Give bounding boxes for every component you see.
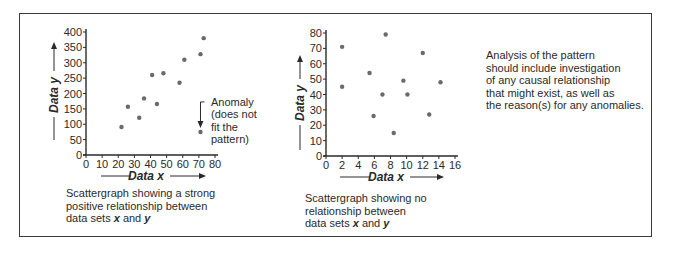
y-axis-title: Data y [47,76,61,113]
caption-text: and [120,212,144,224]
y-tick-label: 10 [310,135,322,147]
caption-line: data sets x and y [66,212,266,225]
analysis-line: should include investigation [486,62,676,75]
anomaly-point [198,130,202,134]
x-tick-label: 0 [323,159,329,171]
y-tick-label: 40 [310,89,322,101]
data-point [202,36,206,40]
caption-text: data sets [305,217,353,229]
anomaly-annotation: Anomaly (does not fit the pattern) [211,96,257,145]
caption-line: data sets x and y [305,217,505,230]
y-tick-label: 80 [310,27,322,39]
x-axis-title: Data x [368,170,405,184]
variable-y: y [383,217,389,229]
analysis-note: Analysis of the pattern should include i… [486,49,676,112]
data-point [150,73,154,77]
x-tick-label: 80 [209,158,221,170]
scatter-chart-no-relationship: 010203040506070800246810121416Data yData… [293,27,461,184]
arrow-up-icon [297,55,303,62]
analysis-line: of any causal relationship [486,74,676,87]
data-point [383,32,387,36]
analysis-line: that might exist, as well as [486,87,676,100]
caption-positive-relationship: Scattergraph showing a strong positive r… [66,187,266,225]
caption-line: Scattergraph showing a strong [66,187,266,200]
data-point [126,105,130,109]
x-tick-label: 60 [177,158,189,170]
data-point [427,112,431,116]
data-point [161,71,165,75]
data-point [155,102,159,106]
y-tick-label: 50 [310,73,322,85]
arrow-right-icon [199,173,206,179]
x-tick-label: 16 [449,159,461,171]
data-point [438,80,442,84]
y-tick-label: 200 [64,88,82,100]
y-tick-label: 0 [76,149,82,161]
data-point [198,52,202,56]
caption-text: data sets [66,212,114,224]
data-point [401,78,405,82]
analysis-line: the reason(s) for any anomalies. [486,99,676,112]
y-tick-label: 300 [64,57,82,69]
caption-line: positive relationship between [66,200,266,213]
anomaly-label-line: pattern) [211,133,257,145]
x-axis-title: Data x [128,169,165,183]
x-tick-label: 14 [433,159,445,171]
y-tick-label: 30 [310,104,322,116]
y-tick-label: 350 [64,41,82,53]
y-tick-label: 150 [64,103,82,115]
caption-no-relationship: Scattergraph showing no relationship bet… [305,192,505,230]
data-point [405,92,409,96]
y-tick-label: 250 [64,72,82,84]
x-tick-label: 4 [355,159,361,171]
variable-y: y [144,212,150,224]
data-point [392,131,396,135]
arrow-up-icon [51,42,57,49]
x-tick-label: 2 [339,159,345,171]
data-point [421,51,425,55]
anomaly-label-line: fit the [211,121,257,133]
data-point [142,96,146,100]
data-point [371,114,375,118]
data-point [380,92,384,96]
y-tick-label: 0 [316,150,322,162]
analysis-line: Analysis of the pattern [486,49,676,62]
data-point [340,45,344,49]
y-tick-label: 400 [64,26,82,38]
data-point [137,116,141,120]
data-point [367,71,371,75]
y-tick-label: 70 [310,42,322,54]
y-tick-label: 60 [310,58,322,70]
caption-text: and [359,217,383,229]
data-point [177,81,181,85]
arrow-right-icon [437,174,444,180]
x-tick-label: 12 [417,159,429,171]
caption-line: relationship between [305,205,505,218]
x-tick-label: 70 [193,158,205,170]
y-tick-label: 100 [64,118,82,130]
x-tick-label: 20 [112,158,124,170]
y-tick-label: 50 [70,134,82,146]
data-point [340,85,344,89]
data-point [119,125,123,129]
data-point [182,57,186,61]
anomaly-label-line: (does not [211,108,257,120]
x-tick-label: 10 [96,158,108,170]
y-axis-title: Data y [293,84,307,121]
anomaly-label-line: Anomaly [211,96,257,108]
scatter-chart-positive: 0501001502002503003504000102030405060708… [47,26,221,183]
arrow-down-icon [197,121,203,128]
x-tick-label: 0 [83,158,89,170]
caption-line: Scattergraph showing no [305,192,505,205]
y-tick-label: 20 [310,119,322,131]
